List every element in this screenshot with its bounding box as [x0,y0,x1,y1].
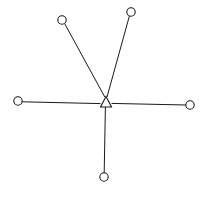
hub-node-triangle[interactable] [101,97,112,108]
edge-group [22,16,186,173]
network-graph [0,0,207,198]
node-right-circle[interactable] [186,101,194,109]
edge-hub-to-bottom-node [104,107,105,173]
edge-hub-to-top-right-node [107,16,129,97]
edge-hub-to-left-node [22,102,100,104]
node-top-right-circle[interactable] [127,8,135,16]
node-top-left-circle[interactable] [58,16,66,24]
edge-hub-to-right-node [112,103,186,105]
network-diagram-canvas [0,0,207,198]
edge-hub-to-top-left-node [65,24,105,98]
node-bottom-circle[interactable] [100,173,108,181]
hub-node-group [101,97,112,108]
node-left-circle[interactable] [14,97,22,105]
